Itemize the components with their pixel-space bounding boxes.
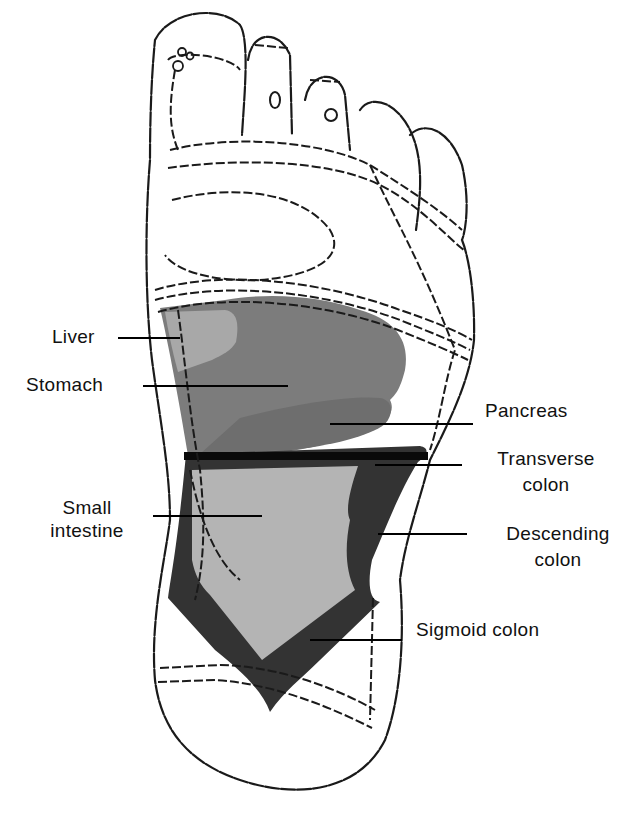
- small-intestine-label-line1: Small: [34, 497, 140, 519]
- stomach-label: Stomach: [26, 374, 103, 396]
- transverse-band: [184, 452, 428, 460]
- descending-colon-label: Descending colon: [482, 523, 634, 571]
- descending-colon-label-line2: colon: [482, 549, 634, 571]
- toe-spot: [187, 53, 194, 60]
- toe-spot: [270, 92, 280, 108]
- sigmoid-colon-label: Sigmoid colon: [416, 619, 539, 641]
- transverse-colon-label: Transverse colon: [484, 448, 608, 496]
- small-intestine-label: Small intestine: [34, 497, 140, 542]
- organ-regions: [160, 296, 428, 712]
- descending-colon-label-line1: Descending: [482, 523, 634, 545]
- transverse-colon-label-line2: colon: [484, 474, 608, 496]
- liver-label: Liver: [52, 326, 95, 348]
- pancreas-label: Pancreas: [485, 400, 568, 422]
- toe-spot: [173, 61, 183, 71]
- toe-spot: [325, 109, 337, 121]
- small-intestine-label-line2: intestine: [34, 520, 140, 542]
- transverse-colon-label-line1: Transverse: [484, 448, 608, 470]
